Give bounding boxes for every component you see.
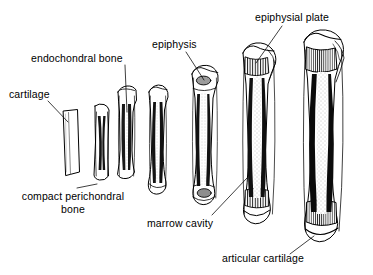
label-epiphysis: epiphysis (152, 38, 197, 51)
stage-3-endochondral-bone (118, 86, 137, 179)
stage-6-epiphysial-plates (243, 43, 276, 224)
label-endochondral-bone: endochondral bone (31, 52, 123, 65)
stage-5-secondary-ossification (192, 65, 218, 204)
label-epiphysial-plate: epiphysial plate (255, 11, 329, 24)
stage-2-perichondral-collar (94, 104, 109, 180)
marrow-cavity-stage-6 (253, 76, 261, 198)
label-articular-cartilage: articular cartilage (222, 252, 304, 265)
stage-4-marrow-cavity (148, 85, 168, 194)
label-marrow-cavity: marrow cavity (147, 217, 213, 230)
leader-marrow-cavity (212, 178, 247, 215)
leader-compact-perichondral-bone (77, 184, 97, 188)
epiphysial-plate-proximal (245, 57, 269, 76)
secondary-ossification-centre-distal (197, 189, 211, 198)
endochondral-ossification-figure: cartilage endochondral bone compact peri… (0, 0, 373, 275)
label-compact-perichondral-bone: compact perichondral bone (14, 190, 132, 216)
marrow-cavity-stage-7 (317, 72, 328, 214)
label-compact-perichondral-bone-line2: bone (61, 203, 85, 215)
secondary-ossification-centre-proximal (196, 76, 210, 85)
stage-7-mature-long-bone (303, 30, 344, 242)
label-cartilage: cartilage (9, 88, 50, 101)
epiphysial-plate-proximal-mature (306, 47, 337, 72)
label-compact-perichondral-bone-line1: compact perichondral (22, 190, 124, 202)
